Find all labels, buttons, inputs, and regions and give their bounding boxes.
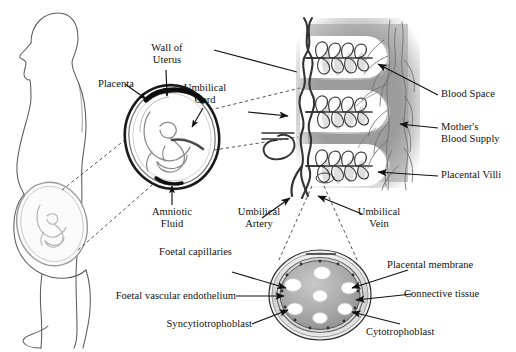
label-mothers-blood-supply-line2: Blood Supply xyxy=(441,133,500,145)
pregnant-woman-silhouette xyxy=(14,13,91,348)
label-placental-villi: Placental Villi xyxy=(441,169,501,181)
label-umbilical-cord-line1: Umbilical xyxy=(174,82,236,94)
label-connective-tissue: Connective tissue xyxy=(404,288,479,300)
label-blood-space: Blood Space xyxy=(441,88,495,100)
label-placenta: Placenta xyxy=(88,78,144,90)
label-wall-of-uterus-line1: Wall of xyxy=(138,42,196,54)
label-umbilical-vein-line2: Vein xyxy=(348,218,410,230)
label-umbilical-artery-line2: Artery xyxy=(228,218,290,230)
label-foetal-vascular-endothelium: Foetal vascular endothelium xyxy=(86,290,236,302)
label-mothers-blood-supply-line1: Mother's xyxy=(441,121,478,133)
label-umbilical-vein-line1: Umbilical xyxy=(348,206,410,218)
label-umbilical-cord-line2: Cord xyxy=(174,94,236,106)
villi-panel xyxy=(262,18,420,198)
placenta-diagram: Placenta Wall of Uterus Umbilical Cord A… xyxy=(0,0,516,352)
label-wall-of-uterus-line2: Uterus xyxy=(138,54,196,66)
wall-of-uterus-leader xyxy=(214,50,297,72)
label-umbilical-artery-line1: Umbilical xyxy=(228,206,290,218)
label-amniotic-fluid-line2: Fluid xyxy=(142,218,202,230)
label-placental-membrane: Placental membrane xyxy=(387,259,473,271)
label-syncytiotrophoblast: Syncytiotrophoblast xyxy=(140,318,252,330)
label-amniotic-fluid-line1: Amniotic xyxy=(142,206,202,218)
label-cytotrophoblast: Cytotrophoblast xyxy=(366,326,434,338)
label-foetal-capillaries: Foetal capillaries xyxy=(140,246,232,258)
panel-entry-arrow xyxy=(248,112,288,116)
villus-transverse-section xyxy=(269,250,371,340)
